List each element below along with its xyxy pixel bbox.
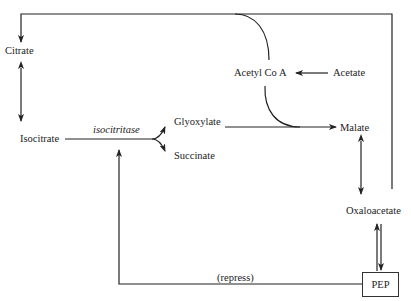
node-acetate: Acetate: [333, 67, 365, 79]
node-isocitrate: Isocitrate: [20, 133, 59, 145]
acetylcoa-join-curve: [265, 86, 300, 127]
node-pep: PEP: [362, 272, 399, 297]
fork-to-succinate: [152, 139, 165, 151]
acetyl-to-citrate-arrow: [21, 14, 269, 60]
node-acetyl-coa: Acetyl Co A: [234, 67, 287, 79]
right-loop-line: [235, 14, 392, 189]
repress-label: (repress): [217, 272, 254, 284]
enzyme-label: isocitritase: [93, 124, 140, 136]
repress-line: [119, 150, 362, 284]
fork-to-glyoxylate: [152, 127, 165, 139]
node-succinate: Succinate: [174, 150, 215, 162]
node-oxaloacetate: Oxaloacetate: [346, 205, 401, 217]
node-malate: Malate: [340, 122, 369, 134]
node-citrate: Citrate: [5, 45, 34, 57]
node-glyoxylate: Glyoxylate: [174, 116, 221, 128]
glyoxylate-cycle-diagram: Citrate Isocitrate isocitritase Glyoxyla…: [0, 0, 411, 301]
